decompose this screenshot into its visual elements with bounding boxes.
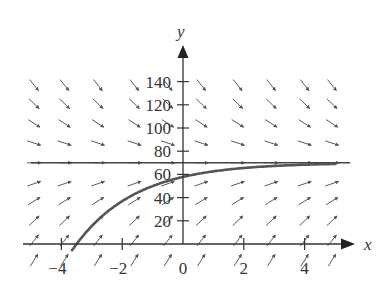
slope-field-chart: x y −4−2024 20406080100120140 <box>0 0 390 291</box>
slope-arrow <box>94 254 101 266</box>
y-tick-label: 120 <box>146 96 172 115</box>
x-axis-arrow-icon <box>341 239 355 250</box>
y-tick-label: 140 <box>146 73 172 92</box>
slope-arrow <box>195 197 207 204</box>
slope-arrow <box>129 120 141 128</box>
y-tick-label: 60 <box>154 165 171 184</box>
slope-arrow <box>327 216 337 226</box>
slope-arrow <box>197 80 206 91</box>
x-tick-label: 2 <box>240 259 249 278</box>
slope-arrow <box>300 80 309 91</box>
slope-arrow <box>298 181 311 186</box>
slope-arrow <box>266 216 276 226</box>
y-axis-arrow-icon <box>178 45 189 58</box>
slope-arrow <box>232 197 244 204</box>
slope-arrow <box>29 216 39 226</box>
slope-arrow <box>265 197 277 204</box>
slope-arrow <box>298 141 311 145</box>
slope-arrow <box>195 181 208 186</box>
slope-arrow <box>59 197 71 204</box>
slope-arrow <box>265 141 278 145</box>
slope-arrow <box>94 80 103 91</box>
slope-arrow <box>231 141 244 145</box>
slope-arrow <box>29 99 39 109</box>
x-tick-label: 4 <box>300 259 309 278</box>
slope-arrow <box>325 181 338 186</box>
slope-arrow <box>195 141 208 145</box>
slope-arrow <box>326 120 338 128</box>
slope-arrow <box>129 216 139 226</box>
slope-arrow <box>91 141 104 145</box>
y-axis-label: y <box>175 22 185 41</box>
slope-arrow <box>327 99 337 109</box>
x-tick-label: −2 <box>109 259 127 278</box>
slope-arrow <box>60 80 69 91</box>
slope-arrow <box>30 254 37 266</box>
y-tick-label: 100 <box>146 119 172 138</box>
slope-arrow <box>299 197 311 204</box>
slope-arrow <box>232 120 244 128</box>
slope-arrow <box>164 254 171 266</box>
axes: x y <box>23 22 372 254</box>
slope-arrow <box>233 99 243 109</box>
slope-arrow <box>131 254 138 266</box>
slope-arrow <box>300 99 310 109</box>
slope-arrow <box>265 181 278 186</box>
slope-arrow <box>196 99 206 109</box>
slope-arrow <box>91 181 104 186</box>
y-tick-label: 80 <box>154 142 171 161</box>
slope-arrow <box>265 120 277 128</box>
slope-arrow <box>328 80 337 91</box>
slope-arrow <box>128 141 141 145</box>
slope-arrow <box>300 216 310 226</box>
x-axis-label: x <box>363 235 372 254</box>
slope-arrow <box>92 120 104 128</box>
slope-arrow <box>231 181 244 186</box>
slope-arrow <box>130 80 139 91</box>
slope-arrow <box>59 99 69 109</box>
slope-arrow <box>299 120 311 128</box>
y-tick-label: 20 <box>154 212 171 231</box>
slope-arrow <box>233 80 242 91</box>
slope-arrow <box>326 197 338 204</box>
y-tick-label: 40 <box>154 189 171 208</box>
slope-arrow <box>59 216 69 226</box>
slope-arrow <box>58 181 71 186</box>
slope-arrow <box>59 120 71 128</box>
slope-arrow <box>28 197 40 204</box>
slope-arrow <box>328 254 335 266</box>
slope-arrow <box>93 99 103 109</box>
x-tick-label: 0 <box>179 259 188 278</box>
slope-arrow <box>266 99 276 109</box>
slope-arrow <box>92 197 104 204</box>
x-tick-label: −4 <box>48 259 67 278</box>
slope-arrow <box>58 141 71 145</box>
slope-arrow <box>129 99 139 109</box>
slope-arrow <box>27 181 40 186</box>
slope-arrow <box>198 254 205 266</box>
slope-arrow <box>27 141 40 145</box>
slope-arrow <box>267 80 276 91</box>
slope-arrow <box>128 181 141 186</box>
slope-arrow <box>30 80 39 91</box>
slope-arrow <box>195 120 207 128</box>
slope-arrow <box>128 197 140 204</box>
slope-arrow <box>325 141 338 145</box>
slope-arrow <box>268 254 275 266</box>
slope-arrow <box>196 216 206 226</box>
slope-arrow <box>28 120 40 128</box>
slope-arrow <box>233 216 243 226</box>
